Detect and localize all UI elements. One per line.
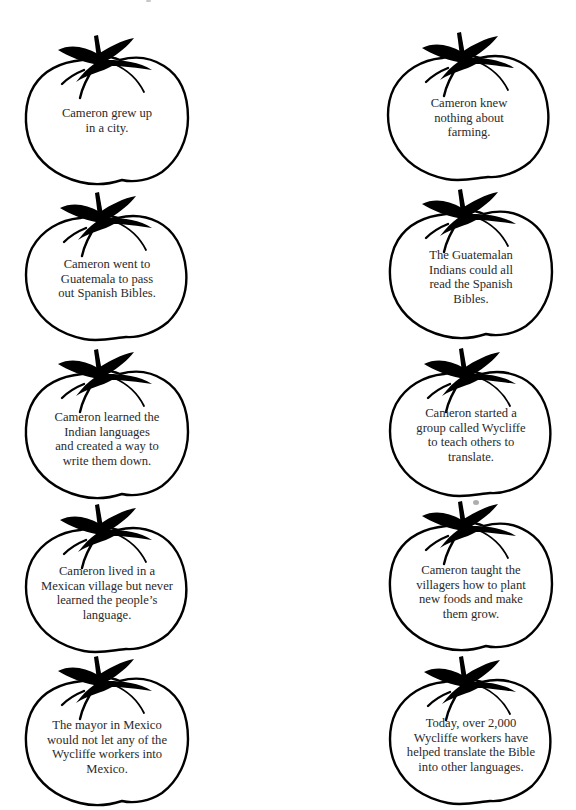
- tomato-card-6: Cameron started a group called Wycliffe …: [386, 346, 556, 501]
- tomato-statement: The mayor in Mexico would not let any of…: [40, 718, 174, 776]
- tomato-card-3: Cameron went to Guatemala to pass out Sp…: [22, 190, 192, 345]
- tomato-card-10: Today, over 2,000 Wycliffe workers have …: [386, 654, 556, 809]
- tomato-statement: Cameron went to Guatemala to pass out Sp…: [40, 257, 174, 301]
- tomato-card-9: The mayor in Mexico would not let any of…: [22, 655, 192, 810]
- tomato-card-8: Cameron taught the villagers how to plan…: [386, 500, 556, 655]
- tomato-card-1: Cameron grew up in a city.: [22, 34, 192, 189]
- tomato-statement: Cameron learned the Indian languages and…: [40, 410, 174, 468]
- tomato-statement: Cameron started a group called Wycliffe …: [404, 406, 538, 464]
- scan-speck: [146, 0, 151, 2]
- tomato-card-7: Cameron lived in a Mexican village but n…: [22, 502, 192, 657]
- tomato-statement: Cameron lived in a Mexican village but n…: [40, 564, 174, 622]
- tomato-statement: Cameron knew nothing about farming.: [402, 96, 536, 140]
- tomato-statement: Cameron taught the villagers how to plan…: [404, 563, 538, 621]
- tomato-card-4: The Guatemalan Indians could all read th…: [386, 188, 556, 343]
- tomato-card-2: Cameron knew nothing about farming.: [384, 30, 554, 185]
- tomato-statement: The Guatemalan Indians could all read th…: [404, 248, 538, 306]
- tomato-card-5: Cameron learned the Indian languages and…: [22, 348, 192, 503]
- tomato-statement: Cameron grew up in a city.: [40, 106, 174, 135]
- tomato-statement: Today, over 2,000 Wycliffe workers have …: [404, 716, 538, 774]
